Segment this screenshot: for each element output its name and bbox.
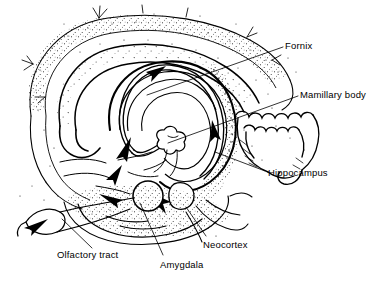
limbic-system-figure: Fornix Mamillary body Hippocampus Olfact… [0, 0, 385, 281]
label-amygdala: Amygdala [160, 260, 203, 270]
label-fornix: Fornix [285, 41, 312, 51]
label-mamillary-body: Mamillary body [300, 90, 366, 100]
brain-diagram-drawing [0, 0, 385, 281]
label-olfactory-tract: Olfactory tract [57, 250, 118, 260]
label-neocortex: Neocortex [203, 240, 248, 250]
label-hippocampus: Hippocampus [268, 168, 328, 178]
